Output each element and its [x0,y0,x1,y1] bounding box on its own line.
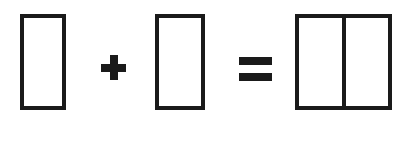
plus-sign-icon [101,55,126,80]
equals-bottom-bar [239,73,272,81]
diagram-canvas [0,0,412,142]
vertical-divider [342,18,346,106]
second-rectangle [155,14,205,110]
equals-sign-icon [239,57,272,81]
plus-vertical-bar [110,55,118,80]
first-rectangle [20,14,66,110]
result-rectangle [295,14,392,110]
equals-top-bar [239,57,272,65]
